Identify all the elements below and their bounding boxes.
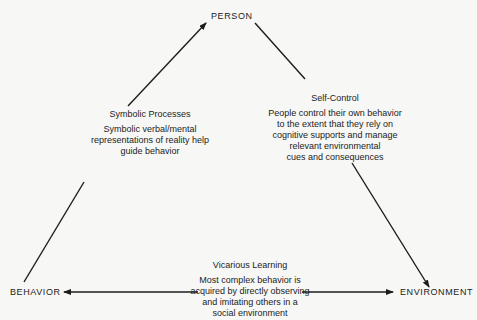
node-behavior: BEHAVIOR: [10, 287, 61, 297]
arrow-person-to-environment: [255, 23, 305, 79]
triadic-diagram: PERSON BEHAVIOR ENVIRONMENT Symbolic Pro…: [0, 0, 477, 320]
vicarious-learning-title: Vicarious Learning: [170, 260, 330, 271]
symbolic-processes-block: Symbolic Processes Symbolic verbal/menta…: [62, 109, 238, 157]
arrow-behavior-to-person: [24, 182, 84, 282]
self-control-title: Self-Control: [240, 93, 430, 104]
symbolic-processes-title: Symbolic Processes: [62, 109, 238, 120]
symbolic-processes-description: Symbolic verbal/mental representations o…: [62, 124, 238, 157]
self-control-block: Self-Control People control their own be…: [240, 93, 430, 163]
node-environment: ENVIRONMENT: [400, 287, 473, 297]
vicarious-learning-block: Vicarious Learning Most complex behavior…: [170, 260, 330, 319]
node-person: PERSON: [211, 11, 253, 21]
vicarious-learning-description: Most complex behavior is acquired by dir…: [170, 275, 330, 319]
self-control-description: People control their own behavior to the…: [240, 108, 430, 163]
